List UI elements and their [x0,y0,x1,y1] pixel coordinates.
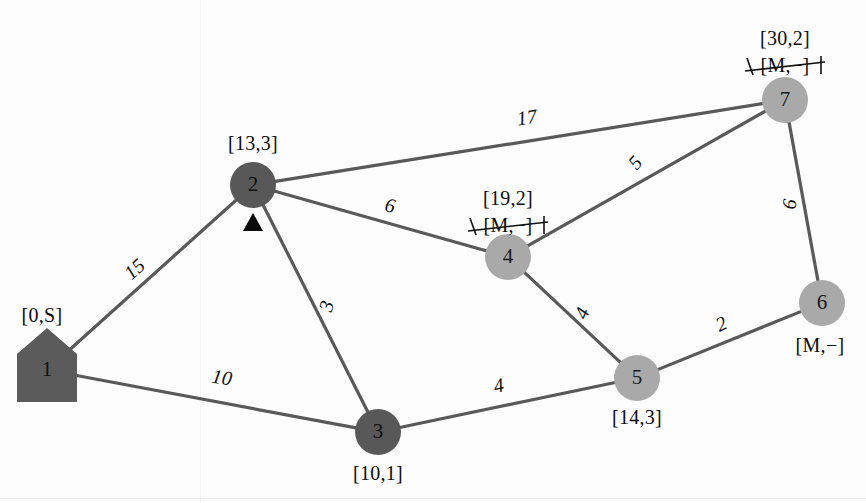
graph-svg: 1234567 1510361754426[0,S][13,3][10,1][1… [0,0,866,503]
node-tag-3: [10,1] [353,462,403,484]
node-label-7: 7 [780,87,791,111]
edge-weight-3-5: 4 [492,373,506,397]
edges-layer [69,103,818,428]
node-label-1: 1 [42,357,53,381]
node-label-2: 2 [248,172,259,196]
edge-weight-1-2: 15 [120,254,150,284]
node-tag-7: [30,2] [760,27,810,49]
edge-4-5 [523,271,621,363]
diagram-canvas: 1234567 1510361754426[0,S][13,3][10,1][1… [0,0,866,503]
scan-artifact-line [0,498,866,499]
edge-weight-2-7: 17 [515,105,539,130]
edge-weight-2-4: 6 [383,193,397,216]
node-tag-4: [19,2] [483,187,533,209]
edge-weight-5-6: 2 [712,312,730,336]
node-tag-6: [M,−] [796,334,845,356]
edge-3-5 [399,382,617,427]
node-tag-1: [0,S] [22,304,63,326]
node-label-5: 5 [632,365,643,389]
node-tag-strike-tick-left-7 [747,58,753,75]
node-tag-5: [14,3] [612,406,662,428]
node-tag-2: [13,3] [228,132,278,154]
edge-2-4 [273,191,488,252]
edge-4-7 [526,110,766,246]
node-tag-strike-tick-left-4 [470,218,476,235]
node-label-4: 4 [503,244,514,268]
edge-5-6 [656,311,802,370]
edge-weight-6-7: 6 [777,198,800,211]
labels-layer: 1510361754426[0,S][13,3][10,1][19,2][M,−… [22,27,845,484]
scan-streak [200,0,201,503]
edge-weight-4-7: 5 [623,151,646,173]
node-label-3: 3 [373,419,384,443]
current-node-triangle-marker [243,213,263,231]
edge-weight-1-3: 10 [210,365,233,390]
edge-1-2 [69,199,237,350]
node-label-6: 6 [817,290,828,314]
